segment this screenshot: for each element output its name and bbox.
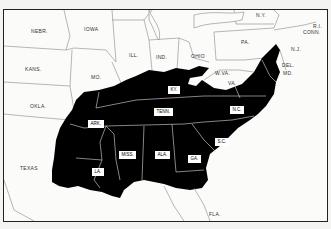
state-label-wva: W.VA.	[215, 70, 230, 76]
map-frame: NEBR. IOWA ILL. IND. OHIO PA. N.Y. N.J. …	[3, 9, 328, 222]
state-label-ohio: OHIO	[191, 53, 205, 59]
state-label-nebr: NEBR.	[31, 28, 48, 34]
state-label-ind: IND.	[156, 54, 167, 60]
state-label-pa: PA.	[241, 39, 250, 45]
state-label-md: MD.	[283, 70, 293, 76]
state-label-ny: N.Y.	[256, 12, 266, 18]
state-label-texas: TEXAS	[20, 165, 38, 171]
state-label-ri: R.I.	[313, 23, 322, 29]
state-label-va: VA.	[228, 80, 237, 86]
state-label-nj: N.J.	[291, 46, 301, 52]
shaded-region	[52, 44, 280, 198]
state-tag-la: LA.	[92, 168, 104, 176]
state-label-okla: OKLA.	[30, 103, 46, 109]
state-label-del: DEL.	[282, 62, 294, 68]
state-tag-ky: KY.	[168, 86, 180, 94]
state-label-mo: MO.	[91, 74, 101, 80]
state-tag-nc: N.C.	[230, 106, 244, 114]
state-label-iowa: IOWA	[84, 26, 98, 32]
state-tag-ga: GA.	[188, 155, 201, 163]
state-tag-sc: S.C.	[215, 138, 229, 146]
state-label-fla: FLA.	[209, 211, 221, 217]
state-tag-miss: MISS.	[119, 151, 136, 159]
state-label-ill: ILL.	[129, 52, 139, 58]
state-label-kans: KANS.	[25, 66, 42, 72]
state-tag-tenn: TENN.	[154, 108, 173, 116]
state-label-conn: CONN.	[303, 29, 321, 35]
state-tag-ala: ALA.	[155, 151, 170, 159]
state-tag-ark: ARK.	[88, 120, 104, 128]
